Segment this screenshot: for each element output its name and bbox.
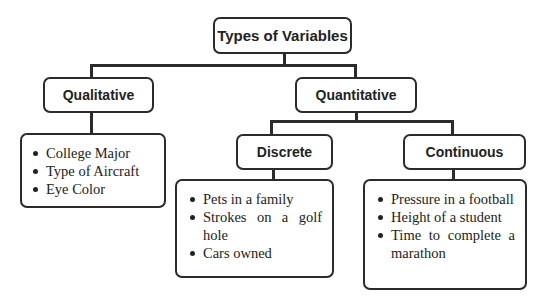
node-qualitative-label: Qualitative (63, 87, 135, 103)
list-item: Time to complete a marathon (375, 226, 515, 262)
qualitative-examples-list: College Major Type of Aircraft Eye Color (30, 144, 156, 198)
list-item: College Major (30, 144, 156, 162)
connector-to-qualitative (90, 64, 93, 78)
node-quantitative: Quantitative (295, 77, 417, 113)
continuous-examples-list: Pressure in a football Height of a stude… (375, 190, 515, 262)
connector-root-horizontal (90, 64, 357, 67)
node-continuous-label: Continuous (426, 144, 504, 160)
node-continuous: Continuous (403, 134, 526, 170)
list-item: Pets in a family (187, 190, 322, 208)
connector-quantitative-horizontal (270, 120, 454, 123)
list-item: Height of a student (375, 208, 515, 226)
node-quantitative-label: Quantitative (316, 87, 397, 103)
node-discrete-label: Discrete (257, 144, 312, 160)
list-item: Eye Color (30, 180, 156, 198)
connector-qualitative-to-list (90, 112, 93, 134)
connector-to-continuous (451, 120, 454, 135)
connector-to-discrete (270, 120, 273, 135)
list-item: Strokes on a golf hole (187, 208, 322, 244)
root-node-types-of-variables: Types of Variables (213, 17, 352, 54)
connector-to-quantitative (354, 64, 357, 78)
list-item: Type of Aircraft (30, 162, 156, 180)
discrete-examples-box: Pets in a family Strokes on a golf hole … (175, 179, 334, 278)
qualitative-examples-box: College Major Type of Aircraft Eye Color (20, 133, 166, 208)
list-item: Pressure in a football (375, 190, 515, 208)
list-item: Cars owned (187, 244, 322, 262)
root-node-label: Types of Variables (217, 27, 348, 44)
discrete-examples-list: Pets in a family Strokes on a golf hole … (187, 190, 322, 262)
node-qualitative: Qualitative (43, 77, 154, 113)
continuous-examples-box: Pressure in a football Height of a stude… (363, 179, 527, 290)
node-discrete: Discrete (236, 134, 333, 170)
